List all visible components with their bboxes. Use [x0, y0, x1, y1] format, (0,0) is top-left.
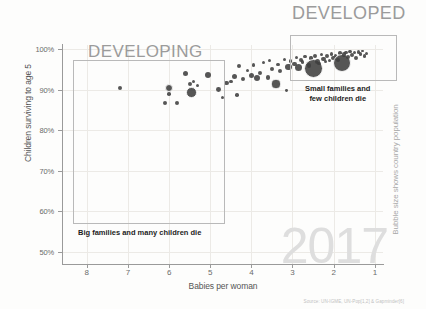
region-caption-developing: Big families and many children die: [78, 228, 201, 238]
data-bubble: [229, 80, 233, 84]
y-axis-tick: [58, 252, 62, 253]
y-axis-tick: [58, 130, 62, 131]
data-bubble: [285, 89, 288, 92]
y-axis-tick-label: 50%: [20, 248, 54, 257]
data-bubble: [241, 77, 245, 81]
y-axis-tick-label: 60%: [20, 207, 54, 216]
data-bubble: [254, 75, 260, 81]
data-bubble: [252, 63, 256, 67]
year-watermark: 2017: [281, 221, 388, 271]
data-bubble: [235, 93, 239, 97]
bubble-size-legend-label: Bubble size shows country population: [391, 80, 400, 260]
data-bubble: [268, 59, 271, 62]
region-heading-developed: DEVELOPED: [292, 3, 406, 24]
region-caption-developed-line1: Small families and: [305, 84, 370, 94]
chart-root: 100%90%80%70%60%50%87654321 DEVELOPING D…: [0, 0, 426, 309]
data-bubble: [246, 69, 249, 72]
y-axis-tick: [58, 171, 62, 172]
region-caption-developed: Small families and few children die: [305, 84, 370, 104]
region-box-developing: [73, 60, 225, 224]
y-axis-tick: [58, 90, 62, 91]
region-caption-developed-line2: few children die: [305, 94, 370, 104]
data-bubble: [278, 69, 282, 73]
y-axis-tick: [58, 49, 62, 50]
data-bubble: [237, 64, 241, 68]
data-bubble: [266, 75, 270, 79]
x-axis-tick-label: 4: [241, 268, 261, 277]
source-note: Source: UN-IGME, UN-Pop[1,2] & Gapminder…: [304, 299, 404, 304]
data-bubble: [249, 73, 254, 78]
y-axis-tick: [58, 211, 62, 212]
data-bubble: [262, 61, 265, 64]
data-bubble: [271, 79, 280, 88]
x-axis-tick-label: 6: [159, 268, 179, 277]
data-bubble: [258, 71, 262, 75]
region-heading-developing: DEVELOPING: [88, 42, 203, 62]
region-box-developed: [290, 35, 397, 81]
x-axis-title: Babies per woman: [62, 281, 384, 291]
data-bubble: [276, 63, 280, 67]
data-bubble: [270, 67, 274, 71]
x-axis-tick-label: 7: [118, 268, 138, 277]
data-bubble: [283, 58, 286, 61]
x-axis-tick-label: 5: [200, 268, 220, 277]
x-axis-tick-label: 8: [77, 268, 97, 277]
data-bubble: [232, 74, 237, 79]
y-axis-title: Children surviving to age 5: [23, 23, 33, 203]
y-axis-line: [62, 44, 63, 265]
